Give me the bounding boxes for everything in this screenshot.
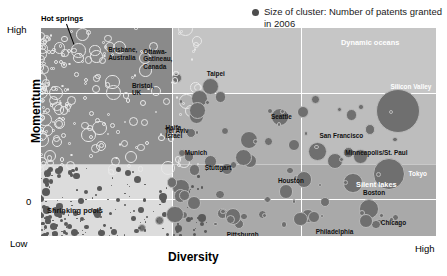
cluster-bubble [346, 109, 358, 121]
cluster-bubble [75, 167, 78, 170]
y-axis-title: Momentum [29, 66, 43, 156]
cluster-bubble [277, 122, 281, 126]
cluster-bubble [215, 190, 224, 199]
cluster-bubble [281, 221, 288, 228]
cluster-bubble [89, 154, 93, 158]
cluster-bubble [103, 224, 106, 227]
cluster-bubble [64, 222, 68, 226]
cluster-bubble [253, 139, 258, 144]
cluster-bubble [77, 232, 79, 234]
cluster-bubble [134, 229, 138, 233]
point-label: Seattle [271, 113, 292, 120]
cluster-bubble [160, 133, 162, 135]
cluster-bubble [293, 212, 307, 226]
cluster-bubble [193, 229, 195, 231]
cluster-bubble [111, 229, 117, 235]
cluster-bubble [98, 230, 104, 236]
cluster-bubble [91, 144, 100, 153]
cluster-bubble [93, 75, 100, 82]
cluster-bubble [131, 216, 136, 221]
point-label: Ottawa- Gatineau, Canada [143, 48, 172, 70]
legend: Size of cluster: Number of patents grant… [252, 6, 447, 29]
cluster-bubble [163, 98, 170, 105]
point-label: San Francisco [320, 132, 364, 139]
cluster-bubble [213, 222, 218, 227]
cluster-bubble [110, 227, 112, 229]
cluster-bubble [119, 143, 121, 145]
cluster-bubble [104, 45, 108, 49]
cluster-bubble [61, 235, 63, 236]
cluster-bubble [63, 230, 66, 233]
point-label: Munich [185, 149, 207, 156]
point-label: Stuttgart [205, 164, 232, 171]
cluster-bubble [45, 218, 51, 224]
point-label: Bristol, UK [132, 82, 154, 97]
cluster-bubble [264, 196, 271, 203]
cluster-bubble [55, 88, 57, 90]
cluster-bubble [41, 212, 42, 213]
cluster-bubble [379, 213, 384, 218]
cluster-bubble [167, 177, 178, 188]
cluster-bubble [46, 232, 49, 235]
quadrant-label-silent-lakes: Silent lakes [356, 180, 397, 189]
cluster-bubble [58, 166, 63, 171]
cluster-bubble [314, 145, 319, 150]
cluster-bubble [84, 225, 88, 229]
cluster-bubble [129, 196, 130, 197]
cluster-bubble [339, 157, 344, 162]
cluster-bubble [116, 130, 119, 133]
cluster-bubble [297, 106, 309, 118]
cluster-bubble [292, 199, 297, 204]
point-label: Minneapolis/St. Paul [345, 149, 407, 156]
cluster-bubble [197, 188, 198, 189]
cluster-bubble [189, 102, 206, 119]
cluster-bubble [194, 48, 196, 50]
cluster-bubble [157, 220, 158, 221]
quadrant-label-dynamic-oceans: Dynamic oceans [341, 38, 399, 47]
cluster-bubble [69, 104, 72, 107]
cluster-bubble [172, 77, 178, 83]
cluster-bubble [179, 234, 182, 236]
cluster-bubble [86, 30, 91, 35]
gridline-horizontal-2 [41, 199, 436, 200]
chart-root: Size of cluster: Number of patents grant… [0, 0, 447, 276]
cluster-bubble [61, 53, 64, 56]
point-label: Boston [363, 189, 385, 196]
gridline-vertical-2 [301, 28, 302, 236]
cluster-bubble [195, 130, 199, 134]
cluster-bubble [76, 189, 78, 191]
cluster-bubble [175, 225, 182, 232]
cluster-bubble [134, 74, 136, 76]
legend-label: Size of cluster: Number of patents grant… [264, 6, 447, 29]
plot-area: Brisbane, AustraliaBristol, UKHaifa, Isr… [41, 28, 436, 236]
cluster-bubble [61, 133, 66, 138]
cluster-bubble [54, 60, 58, 64]
cluster-bubble [166, 233, 169, 236]
cluster-bubble [50, 67, 53, 70]
cluster-bubble [85, 232, 86, 233]
cluster-bubble [159, 193, 167, 201]
cluster-bubble [110, 123, 115, 128]
point-label: Tel Aviv [165, 127, 189, 134]
cluster-bubble [90, 50, 102, 62]
cluster-bubble [343, 180, 348, 185]
cluster-bubble [189, 164, 201, 176]
cluster-bubble [52, 220, 53, 221]
point-label: Philadelphia [316, 228, 354, 235]
cluster-bubble [60, 157, 65, 162]
cluster-bubble [105, 82, 110, 87]
cluster-bubble [67, 88, 69, 90]
cluster-bubble [74, 72, 79, 77]
cluster-bubble [195, 228, 196, 229]
cluster-bubble [159, 204, 160, 205]
cluster-bubble [55, 224, 57, 226]
cluster-bubble [173, 71, 179, 77]
cluster-bubble [41, 161, 46, 166]
cluster-bubble [70, 201, 71, 202]
legend-marker-icon [252, 9, 259, 16]
cluster-bubble [50, 104, 53, 107]
cluster-bubble [44, 217, 45, 218]
cluster-bubble [204, 230, 207, 233]
cluster-bubble [308, 211, 320, 223]
cluster-bubble [109, 235, 110, 236]
